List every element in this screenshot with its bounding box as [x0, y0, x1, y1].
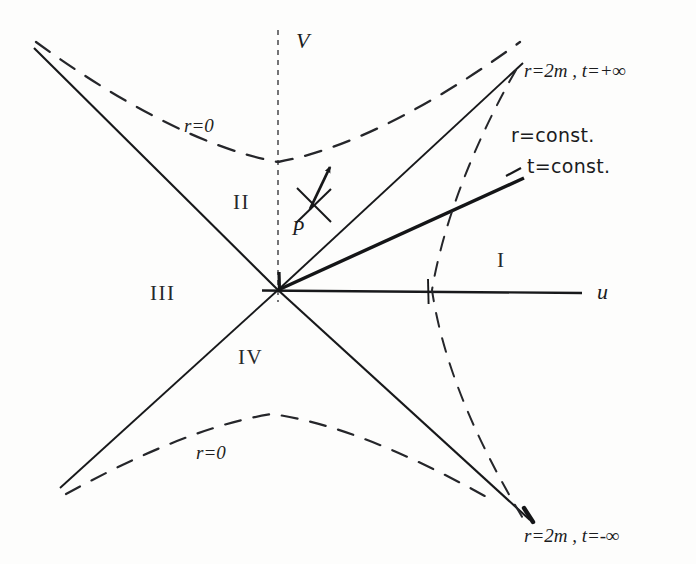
horizon-line-up-right [278, 63, 523, 290]
u-axis-tick [428, 279, 429, 304]
p-worldline-arrow [310, 167, 330, 209]
region-iii-label: III [150, 283, 175, 304]
t-const-leader [506, 168, 521, 176]
u-axis-label: u [597, 281, 608, 303]
point-p-label: P [292, 218, 304, 238]
r-zero-lower-label: r=0 [196, 443, 226, 462]
region-iv-label: IV [238, 347, 263, 368]
t-const-label: t=const. [527, 157, 610, 176]
horizon-past-label: r=2m , t=-∞ [524, 526, 620, 545]
u-axis-line [262, 291, 582, 294]
horizon-line-down-left [60, 290, 278, 488]
r-const-label: r=const. [511, 126, 595, 145]
r-zero-upper-label: r=0 [184, 116, 214, 135]
region-i-label: I [497, 250, 506, 271]
v-axis-label: V [296, 30, 309, 52]
horizon-line-up-left [34, 48, 278, 290]
kruskal-szekeres-diagram: V u I II III IV r=2m , t=+∞ r=2m , t=-∞ … [0, 0, 696, 564]
t-const-ray [278, 178, 524, 290]
diagram-canvas [0, 0, 696, 564]
horizon-future-label: r=2m , t=+∞ [524, 61, 626, 80]
horizon-line-down-right [278, 290, 530, 520]
region-ii-label: II [233, 192, 250, 213]
